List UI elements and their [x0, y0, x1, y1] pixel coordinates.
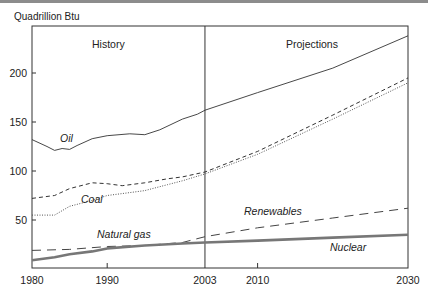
series-lines [32, 36, 408, 260]
coal-line [32, 78, 408, 198]
oil-label: Oil [60, 132, 74, 144]
projections-label: Projections [286, 38, 338, 50]
series-labels: History Projections Oil Coal Natural gas… [60, 38, 367, 253]
energy-consumption-chart: 5010015020019801990200320102030 History … [0, 0, 428, 295]
x-tick-label: 2030 [396, 274, 420, 286]
plot-border [32, 26, 408, 268]
coal-label: Coal [81, 193, 103, 205]
natural-gas-label: Natural gas [97, 228, 151, 240]
x-tick-label: 2010 [246, 274, 270, 286]
oil-line [32, 36, 408, 151]
renewables-label: Renewables [244, 205, 303, 217]
y-tick-label: 100 [9, 165, 27, 177]
y-tick-label: 50 [15, 214, 27, 226]
nuclear-label: Nuclear [330, 241, 367, 253]
y-tick-label: 150 [9, 116, 27, 128]
y-tick-label: 200 [9, 67, 27, 79]
plot-frame [32, 26, 408, 268]
history-label: History [92, 38, 125, 50]
x-tick-label: 2003 [193, 274, 217, 286]
x-tick-label: 1980 [20, 274, 44, 286]
x-tick-label: 1990 [96, 274, 120, 286]
